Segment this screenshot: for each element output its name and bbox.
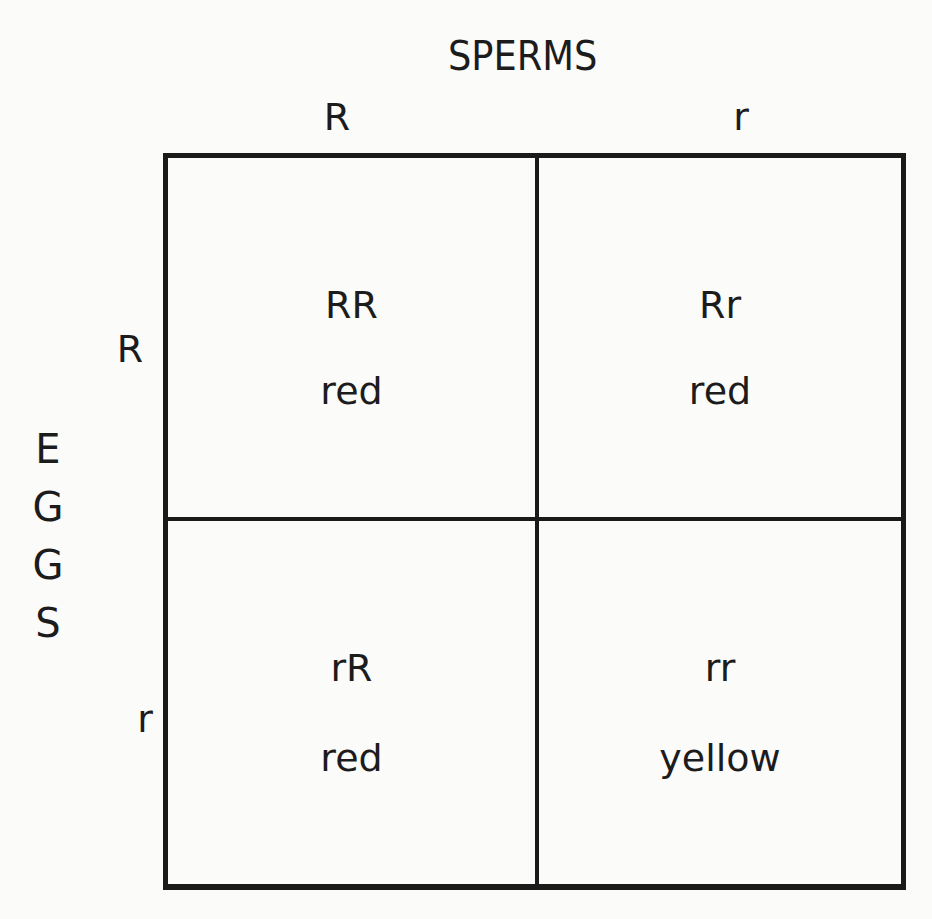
genotype-label: rr [539, 649, 901, 687]
genotype-label: rR [168, 649, 535, 687]
eggs-title: E G G S [28, 420, 68, 652]
eggs-title-letter: G [28, 536, 68, 594]
phenotype-label: yellow [539, 739, 901, 777]
phenotype-label: red [539, 372, 901, 410]
punnett-cell: Rr red [539, 158, 901, 521]
phenotype-label: red [168, 372, 535, 410]
row-allele-label: R [117, 330, 143, 368]
punnett-cell: rR red [168, 521, 539, 884]
sperms-title: SPERMS [448, 36, 597, 76]
eggs-title-letter: E [28, 420, 68, 478]
phenotype-label: red [168, 739, 535, 777]
genotype-label: RR [168, 286, 535, 324]
genotype-label: Rr [539, 286, 901, 324]
column-allele-label: r [733, 98, 749, 136]
row-allele-label: r [137, 700, 153, 738]
eggs-title-letter: G [28, 478, 68, 536]
punnett-cell: RR red [168, 158, 539, 521]
punnett-cell: rr yellow [539, 521, 901, 884]
punnett-grid: RR red Rr red rR red rr yellow [163, 153, 906, 890]
column-allele-label: R [324, 98, 350, 136]
eggs-title-letter: S [28, 594, 68, 652]
